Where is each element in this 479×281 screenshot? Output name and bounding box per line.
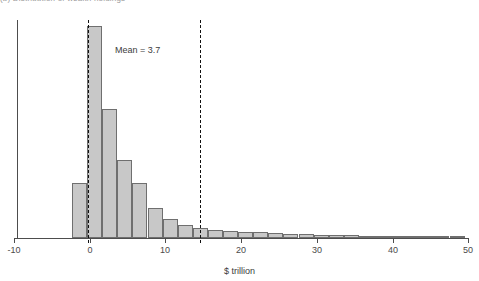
histogram-bar xyxy=(450,236,465,238)
histogram-bar xyxy=(329,235,344,238)
x-axis-tick-label: 40 xyxy=(373,245,413,255)
reference-line xyxy=(88,20,89,243)
x-axis-label: $ trillion xyxy=(0,266,479,276)
histogram-figure: (b) Distribution of wealth holdings -100… xyxy=(0,0,479,281)
x-axis-tick xyxy=(90,238,91,243)
histogram-bar xyxy=(117,160,132,238)
y-axis-line xyxy=(17,20,18,239)
histogram-bar xyxy=(314,235,329,238)
x-axis-tick xyxy=(165,238,166,243)
histogram-bar xyxy=(178,225,193,238)
x-axis-tick xyxy=(393,238,394,243)
histogram-bar xyxy=(208,230,223,238)
histogram-bar xyxy=(268,233,283,238)
x-axis-tick-label: 0 xyxy=(70,245,110,255)
histogram-bar xyxy=(87,26,102,238)
histogram-bar xyxy=(102,109,117,238)
histogram-bar xyxy=(132,183,147,238)
histogram-bar xyxy=(299,234,314,238)
x-axis-tick xyxy=(317,238,318,243)
x-axis-tick xyxy=(14,238,15,243)
histogram-bar xyxy=(253,232,268,238)
x-axis-tick-label: -10 xyxy=(0,245,34,255)
histogram-bar xyxy=(419,236,434,238)
x-axis-tick-label: 50 xyxy=(448,245,479,255)
histogram-bar xyxy=(389,236,404,238)
histogram-bar xyxy=(148,208,163,238)
histogram-bar xyxy=(374,236,389,238)
figure-title: (b) Distribution of wealth holdings xyxy=(0,0,400,4)
histogram-bar xyxy=(223,231,238,238)
x-axis-tick xyxy=(468,238,469,243)
histogram-bar xyxy=(72,183,87,238)
histogram-bar xyxy=(404,236,419,238)
x-axis-tick xyxy=(241,238,242,243)
reference-line xyxy=(200,20,201,243)
histogram-bar xyxy=(344,235,359,238)
histogram-bar xyxy=(283,234,298,238)
x-axis-tick-label: 30 xyxy=(297,245,337,255)
histogram-bar xyxy=(163,219,178,238)
histogram-bar xyxy=(359,236,374,238)
histogram-bar xyxy=(434,236,449,238)
mean-annotation: Mean = 3.7 xyxy=(115,45,160,55)
x-axis-tick-label: 20 xyxy=(221,245,261,255)
x-axis-tick-label: 10 xyxy=(145,245,185,255)
